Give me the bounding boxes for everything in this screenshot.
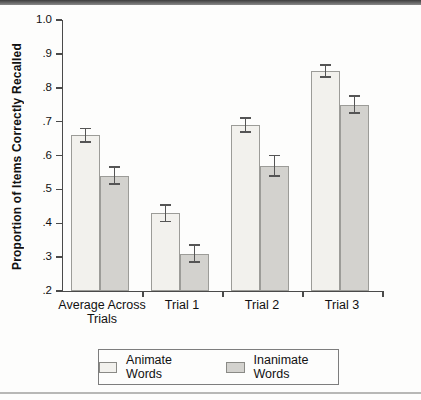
- error-bar: [194, 245, 196, 262]
- chart-legend: Animate WordsInanimate Words: [98, 349, 339, 385]
- y-tick-mark: [56, 19, 62, 21]
- error-bar: [274, 156, 276, 176]
- y-tick-label: .3: [26, 250, 52, 262]
- y-axis-title: Proportion of Items Correctly Recalled: [10, 22, 26, 292]
- y-tick-label: 1.0: [26, 13, 52, 25]
- error-bar-cap-bottom: [320, 76, 331, 78]
- legend-label: Animate Words: [126, 353, 202, 381]
- error-bar: [85, 128, 87, 142]
- y-tick-label: .5: [26, 182, 52, 194]
- y-tick-label: .6: [26, 149, 52, 161]
- error-bar: [245, 118, 247, 132]
- y-tick-label: .8: [26, 81, 52, 93]
- error-bar-cap-top: [109, 166, 120, 168]
- y-tick-mark: [56, 53, 62, 55]
- bar-inanimate-group3: [260, 166, 289, 291]
- bar-animate-group3: [231, 125, 260, 291]
- bar-chart: Proportion of Items Correctly Recalled 1…: [0, 0, 421, 340]
- error-bar-cap-bottom: [349, 112, 360, 114]
- error-bar-cap-top: [189, 244, 200, 246]
- error-bar-cap-top: [320, 64, 331, 66]
- bar-inanimate-group1: [100, 176, 129, 291]
- y-tick-label: .2: [26, 284, 52, 296]
- error-bar-cap-top: [349, 95, 360, 97]
- y-tick-label: .7: [26, 115, 52, 127]
- error-bar-cap-bottom: [269, 175, 280, 177]
- y-tick-mark: [56, 223, 62, 225]
- x-tick-mark: [382, 291, 384, 297]
- y-tick-label: .4: [26, 216, 52, 228]
- error-bar-cap-bottom: [160, 221, 171, 223]
- x-tick-mark: [222, 291, 224, 297]
- error-bar-cap-top: [240, 117, 251, 119]
- y-tick-mark: [56, 189, 62, 191]
- legend-item-animate: Animate Words: [99, 353, 202, 381]
- y-tick-mark: [56, 87, 62, 89]
- x-tick-mark: [142, 291, 144, 297]
- y-tick-mark: [56, 290, 62, 292]
- bar-animate-group4: [311, 71, 340, 291]
- error-bar-cap-bottom: [240, 131, 251, 133]
- bar-inanimate-group4: [340, 105, 369, 291]
- y-tick-mark: [56, 155, 62, 157]
- legend-swatch-inanimate: [226, 362, 244, 373]
- error-bar: [354, 96, 356, 113]
- legend-item-inanimate: Inanimate Words: [226, 353, 338, 381]
- error-bar-cap-top: [160, 204, 171, 206]
- figure-page: Proportion of Items Correctly Recalled 1…: [0, 0, 421, 400]
- y-tick-mark: [56, 256, 62, 258]
- bottom-rule: [0, 392, 421, 394]
- error-bar-cap-top: [269, 155, 280, 157]
- y-tick-mark: [56, 121, 62, 123]
- legend-label: Inanimate Words: [254, 353, 338, 381]
- y-tick-label: .9: [26, 47, 52, 59]
- bar-animate-group2: [151, 213, 180, 291]
- legend-swatch-animate: [99, 362, 117, 373]
- x-category-label: Trial 3: [287, 298, 397, 312]
- x-tick-mark: [302, 291, 304, 297]
- plot-area: [62, 20, 383, 292]
- error-bar-cap-bottom: [189, 261, 200, 263]
- error-bar-cap-bottom: [80, 141, 91, 143]
- error-bar: [114, 167, 116, 184]
- error-bar-cap-top: [80, 128, 91, 130]
- error-bar-cap-bottom: [109, 183, 120, 185]
- bar-animate-group1: [71, 135, 100, 291]
- error-bar: [165, 205, 167, 222]
